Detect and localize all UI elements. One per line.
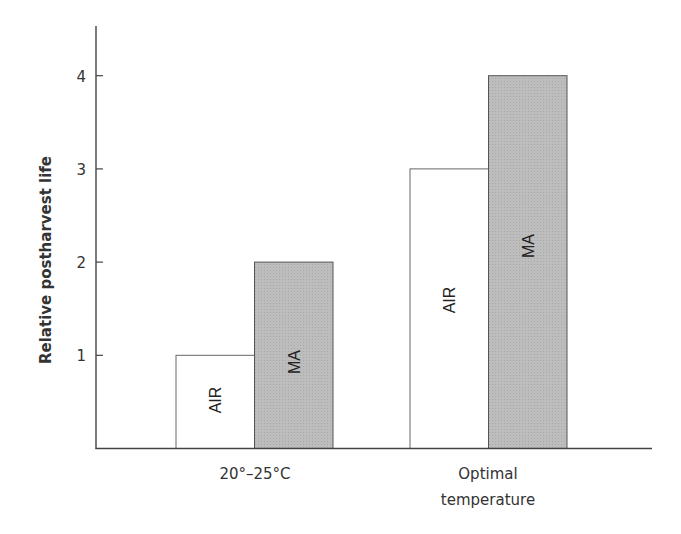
bar-label-ma: MA [286, 350, 303, 374]
x-category-label: temperature [441, 491, 535, 509]
y-tick-label: 3 [76, 161, 86, 179]
x-category-label: Optimal [458, 465, 517, 483]
bars-group: AIRMAAIRMA [176, 76, 567, 449]
y-ticks-group: 1234 [76, 68, 103, 366]
y-tick-label: 1 [76, 347, 86, 365]
bar-label-ma: MA [520, 234, 537, 258]
y-axis-title: Relative postharvest life [37, 156, 55, 364]
bar-ma-2 [489, 76, 568, 449]
category-labels-group: 20°–25°COptimaltemperature [219, 465, 535, 509]
bar-chart: AIRMAAIRMA 1234 Relative postharvest lif… [0, 0, 681, 534]
x-category-label: 20°–25°C [219, 465, 290, 483]
y-tick-label: 4 [76, 68, 86, 86]
bar-label-air: AIR [441, 287, 458, 314]
bar-label-air: AIR [207, 387, 224, 414]
y-tick-label: 2 [76, 254, 86, 272]
